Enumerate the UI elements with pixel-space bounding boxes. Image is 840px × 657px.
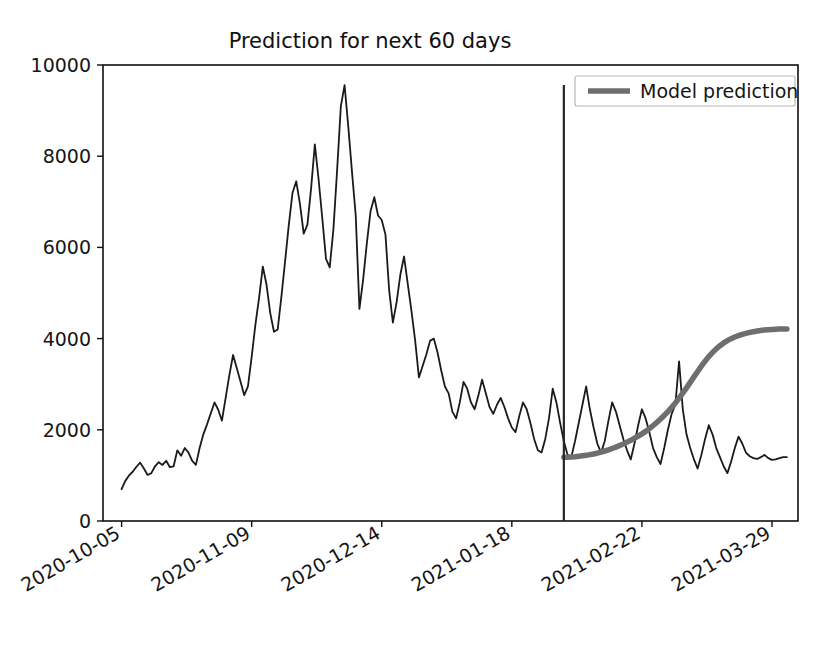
x-tick-label: 2020-10-05	[17, 521, 124, 595]
y-tick-label: 6000	[43, 236, 91, 258]
axes-frame	[103, 65, 798, 521]
x-axis-ticks: 2020-10-052020-11-092020-12-142021-01-18…	[17, 521, 774, 596]
y-tick-label: 10000	[31, 54, 91, 76]
y-tick-label: 8000	[43, 145, 91, 167]
prediction-series-line	[564, 329, 787, 457]
legend-label-model-prediction: Model prediction	[640, 80, 798, 102]
figure-canvas: Prediction for next 60 days 020004000600…	[0, 0, 840, 657]
x-tick-label: 2021-01-18	[407, 521, 514, 595]
page-title: Prediction for next 60 days	[229, 29, 512, 53]
historical-series-line	[122, 85, 787, 489]
x-tick-label: 2020-12-14	[277, 521, 384, 595]
x-tick-label: 2021-03-29	[667, 521, 774, 595]
legend: Model prediction	[575, 76, 798, 106]
x-tick-label: 2021-02-22	[537, 521, 644, 595]
y-tick-label: 0	[79, 510, 91, 532]
y-axis-ticks: 0200040006000800010000	[31, 54, 103, 532]
y-tick-label: 2000	[43, 419, 91, 441]
x-tick-label: 2020-11-09	[147, 521, 254, 595]
chart-plot: Prediction for next 60 days 020004000600…	[0, 0, 840, 657]
y-tick-label: 4000	[43, 328, 91, 350]
